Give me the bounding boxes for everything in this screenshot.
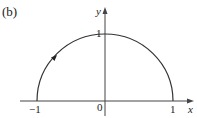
y-axis: [103, 7, 108, 116]
y-tick-1: 1: [96, 27, 102, 39]
x-tick-neg1: −1: [29, 103, 41, 115]
panel-label: (b): [2, 4, 17, 19]
semicircle-figure: (b) y x 1 −1 0 1: [0, 0, 197, 118]
y-axis-label: y: [95, 5, 101, 17]
x-axis: [20, 99, 194, 104]
x-tick-0: 0: [97, 101, 103, 113]
x-tick-1: 1: [170, 103, 176, 115]
x-axis-label: x: [187, 103, 193, 115]
y-axis-arrow-icon: [103, 7, 108, 14]
